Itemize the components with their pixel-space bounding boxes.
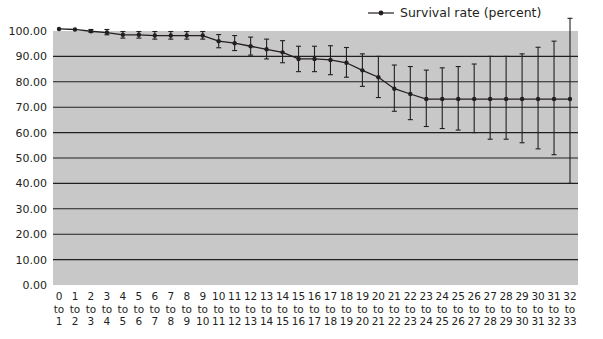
x-tick-label: 10 bbox=[212, 290, 225, 302]
x-tick-label: 12 bbox=[228, 315, 241, 327]
x-tick-label: 16 bbox=[308, 290, 322, 302]
data-point bbox=[488, 97, 492, 101]
x-tick-label: 10 bbox=[196, 315, 209, 327]
x-tick-label: 17 bbox=[324, 290, 337, 302]
data-point bbox=[504, 97, 508, 101]
x-tick-label: to bbox=[533, 303, 544, 315]
x-tick-label: to bbox=[309, 303, 320, 315]
data-point bbox=[344, 61, 348, 65]
data-point bbox=[296, 57, 300, 61]
x-tick-label: 27 bbox=[483, 290, 496, 302]
x-tick-label: 24 bbox=[436, 290, 450, 302]
y-tick-label: 40.00 bbox=[16, 177, 48, 190]
y-tick-label: 20.00 bbox=[16, 228, 48, 241]
x-tick-label: 24 bbox=[420, 315, 434, 327]
x-tick-label: to bbox=[70, 303, 81, 315]
data-point bbox=[169, 33, 173, 37]
x-tick-label: 22 bbox=[404, 290, 417, 302]
x-tick-label: 12 bbox=[244, 290, 257, 302]
x-tick-label: 20 bbox=[372, 290, 385, 302]
x-tick-label: 7 bbox=[167, 290, 174, 302]
data-point bbox=[408, 92, 412, 96]
x-tick-label: 6 bbox=[151, 290, 158, 302]
x-tick-label: to bbox=[565, 303, 576, 315]
x-tick-label: 7 bbox=[151, 315, 158, 327]
x-tick-label: 30 bbox=[531, 290, 544, 302]
x-tick-label: to bbox=[54, 303, 65, 315]
x-tick-label: 30 bbox=[515, 315, 528, 327]
data-point bbox=[536, 97, 540, 101]
x-tick-label: 20 bbox=[356, 315, 369, 327]
data-point bbox=[312, 57, 316, 61]
data-point bbox=[520, 97, 524, 101]
x-tick-label: 25 bbox=[452, 290, 465, 302]
x-tick-label: to bbox=[405, 303, 416, 315]
x-tick-label: 14 bbox=[260, 315, 274, 327]
x-tick-label: to bbox=[373, 303, 384, 315]
x-tick-label: 5 bbox=[136, 290, 143, 302]
data-point bbox=[424, 97, 428, 101]
x-tick-label: 28 bbox=[499, 290, 512, 302]
x-tick-label: to bbox=[261, 303, 272, 315]
y-tick-label: 90.00 bbox=[16, 50, 48, 63]
data-point bbox=[153, 33, 157, 37]
data-point bbox=[376, 75, 380, 79]
data-point bbox=[552, 97, 556, 101]
x-tick-label: to bbox=[181, 303, 192, 315]
x-tick-label: 0 bbox=[56, 290, 63, 302]
x-tick-label: to bbox=[245, 303, 256, 315]
x-tick-label: to bbox=[437, 303, 448, 315]
y-tick-label: 10.00 bbox=[16, 254, 48, 267]
x-tick-label: 17 bbox=[308, 315, 321, 327]
x-tick-label: 25 bbox=[436, 315, 449, 327]
data-point bbox=[472, 97, 476, 101]
x-tick-label: 32 bbox=[563, 290, 576, 302]
x-tick-label: to bbox=[86, 303, 97, 315]
data-point bbox=[440, 97, 444, 101]
x-tick-label: to bbox=[549, 303, 560, 315]
data-point bbox=[121, 33, 125, 37]
data-point bbox=[248, 44, 252, 48]
data-point bbox=[137, 33, 141, 37]
x-tick-label: 21 bbox=[372, 315, 385, 327]
y-tick-label: 60.00 bbox=[16, 127, 48, 140]
x-tick-label: to bbox=[150, 303, 161, 315]
x-tick-label: 29 bbox=[499, 315, 512, 327]
x-tick-label: to bbox=[197, 303, 208, 315]
x-tick-label: to bbox=[517, 303, 528, 315]
y-tick-label: 30.00 bbox=[16, 203, 48, 216]
x-tick-label: 19 bbox=[340, 315, 353, 327]
x-tick-label: 9 bbox=[183, 315, 190, 327]
x-tick-label: to bbox=[485, 303, 496, 315]
x-tick-label: 13 bbox=[260, 290, 273, 302]
x-tick-label: 8 bbox=[167, 315, 174, 327]
x-tick-label: 2 bbox=[88, 290, 95, 302]
x-tick-label: to bbox=[229, 303, 240, 315]
y-tick-label: 0.00 bbox=[23, 279, 48, 292]
x-tick-label: 4 bbox=[104, 315, 111, 327]
x-tick-label: 15 bbox=[276, 315, 289, 327]
x-tick-label: to bbox=[293, 303, 304, 315]
data-point bbox=[232, 41, 236, 45]
x-tick-label: 1 bbox=[72, 290, 79, 302]
y-tick-label: 100.00 bbox=[9, 25, 48, 38]
data-point bbox=[264, 47, 268, 51]
data-point bbox=[328, 58, 332, 62]
x-tick-label: 1 bbox=[56, 315, 63, 327]
data-point bbox=[216, 39, 220, 43]
x-tick-label: 26 bbox=[468, 290, 482, 302]
x-tick-label: 9 bbox=[199, 290, 206, 302]
x-tick-label: to bbox=[389, 303, 400, 315]
data-point bbox=[185, 33, 189, 37]
x-tick-label: 18 bbox=[340, 290, 353, 302]
x-tick-label: 3 bbox=[88, 315, 95, 327]
data-point bbox=[73, 27, 77, 31]
y-tick-label: 50.00 bbox=[16, 152, 48, 165]
x-tick-label: to bbox=[341, 303, 352, 315]
x-tick-label: 5 bbox=[120, 315, 127, 327]
data-point bbox=[568, 97, 572, 101]
x-tick-label: to bbox=[501, 303, 512, 315]
data-point bbox=[280, 50, 284, 54]
y-tick-label: 70.00 bbox=[16, 101, 48, 114]
x-tick-label: 8 bbox=[183, 290, 190, 302]
